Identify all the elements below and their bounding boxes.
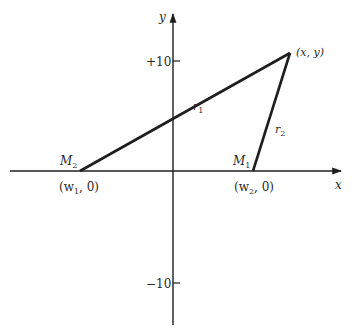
m1-name: M: [232, 154, 246, 168]
point-xy-label: (x, y): [296, 46, 324, 59]
y-tick-label-minus10: −10: [146, 277, 171, 291]
segment-r2-label: r2: [275, 123, 285, 138]
mass-m2-label: M2: [59, 154, 77, 170]
x-axis-label: x: [335, 178, 342, 192]
r2-subscript: 2: [280, 129, 285, 138]
y-axis-label: y: [158, 10, 166, 24]
m1-subscript: 1: [245, 161, 250, 170]
two-mass-position-diagram: y x +10 −10 (x, y) r1 r2 M2 (w1, 0) M1 (…: [0, 0, 352, 336]
y-tick-label-plus10: +10: [146, 55, 171, 69]
mass-m1-coordinate: (w2, 0): [234, 180, 274, 196]
r1-subscript: 1: [198, 106, 203, 115]
mass-m1-label: M1: [232, 154, 250, 170]
m2-coord-pre: (w: [59, 180, 75, 194]
m2-name: M: [59, 154, 73, 168]
m2-coord-post: , 0): [79, 180, 99, 194]
m1-coord-post: , 0): [254, 180, 274, 194]
m2-subscript: 2: [72, 161, 77, 170]
m1-coord-pre: (w: [234, 180, 250, 194]
mass-m2-coordinate: (w1, 0): [59, 180, 99, 196]
